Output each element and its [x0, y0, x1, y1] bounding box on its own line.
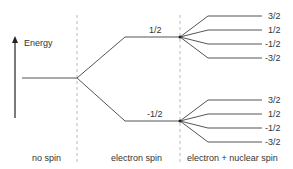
nuclear-upper-label-1: 3/2: [268, 11, 281, 21]
energy-axis-arrow: [12, 36, 18, 118]
nuclear-lower-label-1: 3/2: [268, 95, 281, 105]
electron-level-up-label: 1/2: [149, 25, 162, 35]
column-label-no-spin: no spin: [32, 153, 61, 163]
column-label-electron-nuclear-spin: electron + nuclear spin: [187, 153, 278, 163]
energy-label: Energy: [24, 38, 53, 48]
electron-spin-levels: [77, 37, 180, 121]
nuclear-lower-label-4: -3/2: [265, 137, 281, 147]
column-label-electron-spin: electron spin: [111, 153, 162, 163]
nuclear-upper-label-4: -3/2: [265, 53, 281, 63]
energy-level-diagram: [0, 0, 293, 169]
nuclear-upper-label-3: -1/2: [265, 39, 281, 49]
nuclear-upper-label-2: 1/2: [268, 25, 281, 35]
nuclear-levels-upper: [180, 16, 262, 58]
electron-level-down-label: -1/2: [147, 109, 163, 119]
split-node-upper: [179, 36, 182, 39]
nuclear-lower-label-3: -1/2: [265, 123, 281, 133]
nuclear-lower-label-2: 1/2: [268, 109, 281, 119]
nuclear-levels-lower: [180, 100, 262, 142]
split-node-lower: [179, 120, 182, 123]
